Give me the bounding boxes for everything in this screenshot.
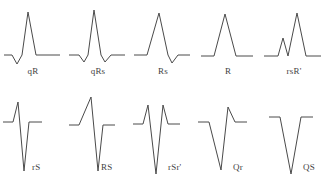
ecg-trace-path <box>201 14 253 56</box>
waveform-cell: R <box>195 0 261 92</box>
ecg-trace-path <box>198 107 247 170</box>
ecg-trace-path <box>69 10 125 62</box>
ecg-trace-icon <box>261 92 327 184</box>
waveform-label: rsR' <box>261 66 327 76</box>
waveform-cell: RS <box>65 92 131 184</box>
qrs-morphology-figure: qRqRsRsRrsR'rSRSrSr'QrQS <box>0 0 328 185</box>
waveform-label: RS <box>101 162 112 172</box>
waveform-grid: qRqRsRsRrsR'rSRSrSr'QrQS <box>0 0 328 185</box>
waveform-label: Rs <box>130 66 196 76</box>
ecg-trace-path <box>4 12 60 64</box>
waveform-label: qR <box>0 66 66 76</box>
ecg-trace-path <box>134 13 190 63</box>
waveform-label: Qr <box>233 162 243 172</box>
waveform-cell: qR <box>0 0 66 92</box>
waveform-cell: QS <box>261 92 327 184</box>
ecg-trace-icon <box>195 0 261 92</box>
ecg-trace-path <box>3 102 42 171</box>
waveform-label: R <box>195 66 261 76</box>
waveform-label: QS <box>303 162 315 172</box>
waveform-label: rS <box>32 162 40 172</box>
waveform-cell: qRs <box>65 0 131 92</box>
waveform-cell: rSr' <box>130 92 196 184</box>
ecg-trace-icon <box>130 92 196 184</box>
waveform-label: rSr' <box>168 162 181 172</box>
ecg-trace-icon <box>0 0 66 92</box>
ecg-trace-icon <box>65 92 131 184</box>
ecg-trace-path <box>264 13 321 56</box>
ecg-trace-path <box>69 97 115 171</box>
ecg-trace-icon <box>195 92 261 184</box>
waveform-cell: Rs <box>130 0 196 92</box>
ecg-trace-icon <box>261 0 327 92</box>
waveform-cell: rS <box>0 92 66 184</box>
ecg-trace-icon <box>130 0 196 92</box>
ecg-trace-icon <box>65 0 131 92</box>
waveform-label: qRs <box>65 66 131 76</box>
waveform-cell: Qr <box>195 92 261 184</box>
waveform-cell: rsR' <box>261 0 327 92</box>
